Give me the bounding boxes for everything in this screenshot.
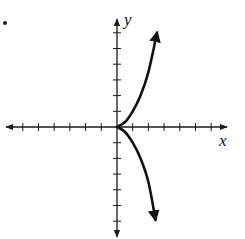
y-axis-label: y [124, 10, 132, 30]
upper-branch-curve [117, 33, 157, 127]
curves [117, 33, 157, 220]
cusp-graph [0, 0, 245, 239]
lower-branch-curve [117, 127, 155, 220]
x-axis-label: x [219, 131, 227, 151]
